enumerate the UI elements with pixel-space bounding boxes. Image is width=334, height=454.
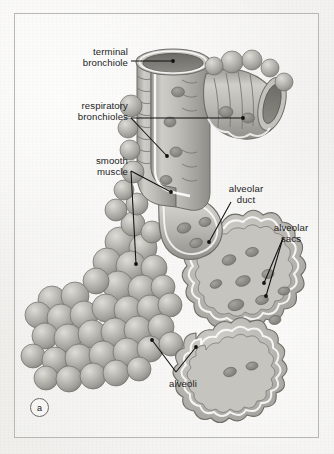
label-alveoli: alveoli	[158, 378, 208, 389]
label-respiratory-bronchioles-line1: respiratory	[40, 100, 128, 111]
label-alveolar-sacs: alveolar sacs	[262, 222, 320, 245]
label-terminal-bronchiole-line1: terminal	[48, 46, 128, 57]
label-terminal-bronchiole: terminal bronchiole	[48, 46, 128, 69]
alveolar-sac-lower-lobe	[173, 318, 287, 423]
label-smooth-muscle-line1: smooth	[48, 155, 128, 166]
label-alveolar-duct: alveolar duct	[216, 183, 276, 206]
label-alveolar-sacs-line2: sacs	[262, 233, 320, 244]
label-alveolar-duct-line1: alveolar	[216, 183, 276, 194]
label-respiratory-bronchioles-line2: bronchioles	[40, 111, 128, 122]
label-smooth-muscle-line2: muscle	[48, 166, 128, 177]
label-respiratory-bronchioles: respiratory bronchioles	[40, 100, 128, 123]
label-terminal-bronchiole-line2: bronchiole	[48, 57, 128, 68]
respiratory-bronchiole-branch	[204, 50, 293, 139]
figure-part-marker: a	[30, 398, 49, 417]
label-alveolar-sacs-line1: alveolar	[262, 222, 320, 233]
label-alveolar-duct-line2: duct	[216, 194, 276, 205]
respiratory-anatomy-figure: terminal bronchiole respiratory bronchio…	[0, 0, 334, 454]
label-alveoli-line1: alveoli	[158, 378, 208, 389]
label-smooth-muscle: smooth muscle	[48, 155, 128, 178]
